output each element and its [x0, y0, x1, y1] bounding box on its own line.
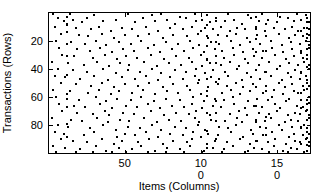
data-point [140, 145, 142, 147]
data-point [182, 78, 184, 80]
data-point [113, 37, 115, 39]
data-point [113, 143, 115, 145]
data-point [182, 134, 184, 136]
data-point [197, 124, 199, 126]
data-point [300, 92, 302, 94]
data-point [297, 64, 299, 66]
data-point [206, 147, 208, 149]
data-point [194, 117, 196, 119]
data-point [201, 151, 203, 153]
data-point [230, 131, 232, 133]
data-point [204, 27, 206, 29]
data-point [308, 102, 310, 104]
data-point [271, 131, 273, 133]
data-point [70, 119, 72, 121]
data-point [236, 27, 238, 29]
data-point [215, 112, 217, 114]
data-point [197, 82, 199, 84]
data-point [294, 140, 296, 142]
data-point [156, 65, 158, 67]
data-point [212, 28, 214, 30]
data-point [244, 151, 246, 153]
data-point [175, 112, 177, 114]
data-point [127, 126, 129, 128]
data-point [198, 44, 200, 46]
data-point [58, 47, 60, 49]
data-point [239, 44, 241, 46]
data-point [282, 150, 284, 152]
data-point [215, 17, 217, 19]
data-point [215, 100, 217, 102]
data-point [160, 72, 162, 74]
data-point [279, 107, 281, 109]
data-point [73, 55, 75, 57]
data-point [131, 148, 133, 150]
data-point [220, 26, 222, 28]
data-point [302, 57, 304, 59]
data-point [255, 28, 257, 30]
data-point [98, 89, 100, 91]
data-point [147, 47, 149, 49]
data-point [305, 14, 307, 16]
data-point [249, 41, 251, 43]
data-point [75, 27, 77, 29]
data-point [186, 35, 188, 37]
data-point [115, 129, 117, 131]
data-point [168, 119, 170, 121]
data-point [162, 86, 164, 88]
data-point [108, 65, 110, 67]
data-point [92, 57, 94, 59]
data-point [201, 65, 203, 67]
data-point [239, 93, 241, 95]
data-point [66, 98, 68, 100]
data-point [306, 127, 308, 129]
data-point [233, 103, 235, 105]
data-point [175, 55, 177, 57]
data-point [308, 28, 310, 30]
data-point [66, 93, 68, 95]
data-point [125, 105, 127, 107]
data-point [207, 37, 209, 39]
data-point [200, 136, 202, 138]
data-point [306, 37, 308, 39]
data-point [174, 69, 176, 71]
data-point [265, 85, 267, 87]
y-axis-title: Transactions (Rows) [1, 33, 13, 133]
data-point [145, 26, 147, 28]
data-point [185, 17, 187, 19]
data-point [124, 83, 126, 85]
data-point [242, 136, 244, 138]
data-point [284, 121, 286, 123]
data-point [242, 51, 244, 53]
data-point [179, 16, 181, 18]
data-point [165, 98, 167, 100]
data-point [246, 72, 248, 74]
data-point [206, 45, 208, 47]
data-point [303, 89, 305, 91]
data-point [273, 27, 275, 29]
data-point [226, 141, 228, 143]
data-point [259, 43, 261, 45]
data-point [66, 24, 68, 26]
y-tick-label: 60 [31, 91, 43, 103]
data-point [127, 13, 129, 15]
data-point [223, 148, 225, 150]
data-point [195, 20, 197, 22]
data-point [148, 33, 150, 35]
data-point [92, 113, 94, 115]
data-point [244, 58, 246, 60]
data-point [300, 30, 302, 32]
data-point [99, 47, 101, 49]
data-point [299, 78, 301, 80]
data-point [87, 92, 89, 94]
data-point [189, 89, 191, 91]
data-point [223, 99, 225, 101]
data-point [192, 96, 194, 98]
data-point [66, 55, 68, 57]
data-point [229, 61, 231, 63]
data-point [306, 88, 308, 90]
data-point [287, 151, 289, 153]
data-point [265, 71, 267, 73]
data-point [89, 50, 91, 52]
data-point [296, 13, 298, 15]
